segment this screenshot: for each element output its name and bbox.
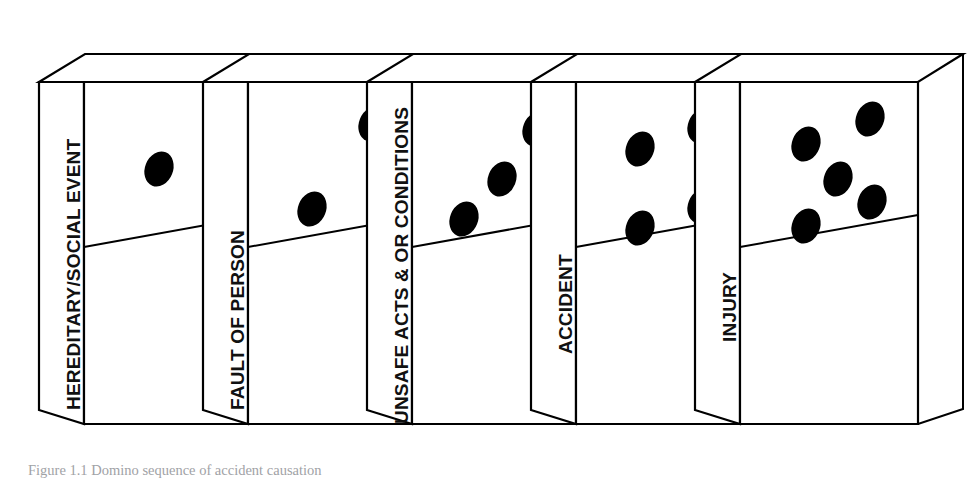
domino-5[interactable]: INJURY: [678, 24, 971, 444]
domino-5-front-face: [740, 82, 918, 424]
domino-2-side-face: [203, 82, 248, 424]
domino-3-side-face: [367, 82, 412, 424]
figure-caption: Figure 1.1 Domino sequence of accident c…: [28, 462, 888, 479]
domino-5-side-face: [695, 82, 740, 424]
domino-4-side-face: [531, 82, 576, 424]
domino-1-side-face: [39, 82, 84, 424]
domino-5-top-face: [695, 54, 963, 82]
